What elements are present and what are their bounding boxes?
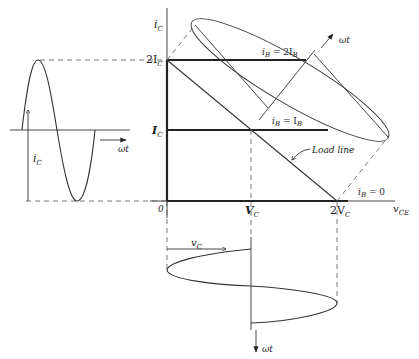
origin-label: 0: [158, 204, 164, 214]
current-sine: [22, 60, 95, 201]
parallel-line: [195, 25, 268, 108]
voltage-waveform: [167, 237, 337, 352]
ib-zero-label: iB = 0: [358, 187, 385, 199]
voltage-time-label: ωt: [262, 344, 273, 354]
transistor-load-line-diagram: iC 2IC IC 0 VC 2VC vCE iB = 2IB iB = IB …: [0, 0, 419, 359]
tick-2VC: 2VC: [330, 204, 351, 219]
load-line-label: Load line: [311, 145, 354, 155]
ib-2IB-label: iB = 2IB: [262, 47, 298, 59]
current-label: iC: [33, 152, 43, 167]
load-line-pointer: [292, 149, 310, 160]
tick-VC: VC: [245, 204, 260, 219]
tick-2IC: 2IC: [146, 53, 163, 68]
x-axis-label: vCE: [393, 203, 409, 217]
signal-ellipse: [180, 2, 400, 157]
ellipse-time-label: ωt: [339, 35, 350, 45]
voltage-sine: [167, 249, 337, 323]
dash-ellipse-top: [167, 25, 195, 60]
y-axis-label: iC: [154, 18, 164, 33]
ib-IB-label: iB = IB: [272, 116, 302, 128]
current-waveform: [10, 60, 130, 201]
tick-IC: IC: [151, 124, 163, 139]
current-time-label: ωt: [118, 144, 129, 154]
ellipse-time-arrow: [321, 34, 333, 48]
